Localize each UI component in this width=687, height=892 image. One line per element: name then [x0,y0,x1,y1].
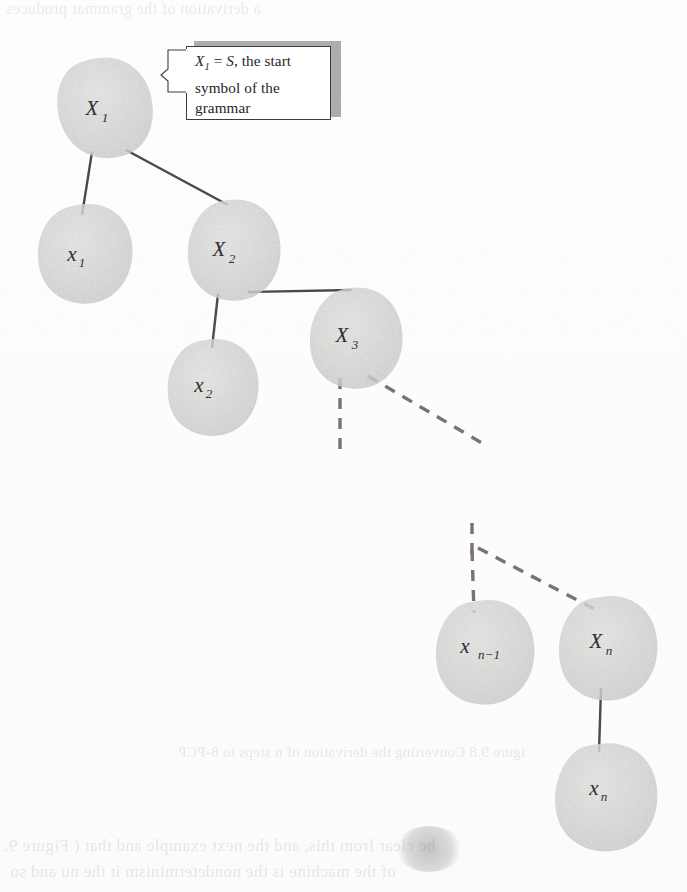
tree-canvas: X 1 x 1 X 2 x 2 [0,0,687,892]
node-x2-shape [168,339,259,436]
node-xn-1-label: x [459,634,470,658]
callout-tail [160,49,190,93]
node-x1-label: x [66,242,77,266]
callout-line-1-rest: = S, the start [210,52,291,69]
node-xn-label: x [588,776,599,800]
node-X2-subscript: 2 [229,251,236,266]
node-X1[interactable]: X 1 [57,57,153,158]
node-X3[interactable]: X 3 [310,287,403,388]
figure-derivation-tree: a derivation of the grammar produces igu… [0,0,687,892]
node-Xn-subscript: n [606,643,613,658]
node-x1[interactable]: x 1 [38,204,133,304]
node-xn-1[interactable]: x n−1 [436,600,535,705]
node-xn-1-subscript: n−1 [478,647,500,662]
node-X2-label: X [212,237,227,261]
callout-symbol-X: X [195,52,204,69]
node-x2-subscript: 2 [206,386,213,401]
node-x2-label: x [193,373,204,397]
node-X2[interactable]: X 2 [188,199,281,300]
edge-X3-continuation-right [368,376,487,446]
node-x2[interactable]: x 2 [168,339,259,436]
node-X1-shape [57,57,153,158]
node-xn[interactable]: x n [555,743,657,851]
callout-line-2: symbol of the [195,79,280,96]
node-X1-subscript: 1 [102,110,109,125]
callout-text: X1 = S, the start symbol of the grammar [195,51,326,119]
node-X1-label: X [85,96,100,120]
nodes-group: X 1 x 1 X 2 x 2 [38,57,658,851]
edge-X1-X2 [126,150,228,205]
callout-start-symbol[interactable]: X1 = S, the start symbol of the grammar [186,46,333,122]
node-X3-subscript: 3 [351,337,359,352]
callout-line-3: grammar [195,99,251,116]
node-x1-shape [38,204,133,304]
node-xn-subscript: n [601,789,608,804]
node-Xn-label: X [589,629,604,653]
node-x1-subscript: 1 [79,255,86,270]
node-X3-label: X [335,323,350,347]
node-Xn[interactable]: X n [559,596,658,701]
